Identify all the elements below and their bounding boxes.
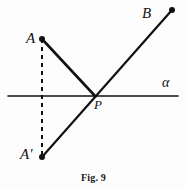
label-point-a: A xyxy=(26,31,35,46)
label-point-p: P xyxy=(94,98,102,111)
figure-container: A A' B P α Fig. 9 xyxy=(0,0,187,189)
dot-a-prime xyxy=(39,154,45,160)
label-line-alpha: α xyxy=(162,76,169,90)
dot-b xyxy=(169,7,175,13)
figure-caption: Fig. 9 xyxy=(0,172,187,183)
label-point-a-prime: A' xyxy=(20,147,32,162)
label-point-b: B xyxy=(142,6,151,21)
segment-a-to-p xyxy=(42,39,96,97)
dot-a xyxy=(39,36,45,42)
segment-a-prime-to-b xyxy=(42,10,172,157)
